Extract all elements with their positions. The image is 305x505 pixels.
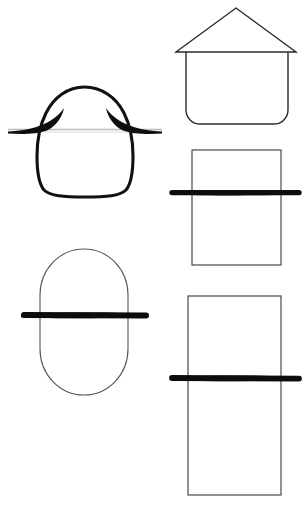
drawing-sheet [0, 0, 305, 505]
figure-egg-with-wings [8, 87, 162, 197]
figure-pill-with-bar [21, 249, 149, 395]
figure-house [176, 8, 296, 124]
egg-shape-outline [37, 87, 133, 197]
figure-tall-rect-with-bar [170, 296, 301, 495]
figure-square-with-bar [171, 150, 300, 265]
square-outline [192, 150, 281, 265]
house-roof-icon [176, 8, 296, 52]
tall-rectangle-outline [188, 296, 281, 495]
pill-outline [40, 249, 128, 395]
house-body-outline [186, 52, 288, 124]
figures-canvas [0, 0, 305, 505]
